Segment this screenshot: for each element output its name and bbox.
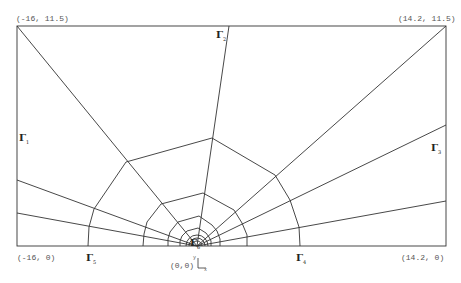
coord-bottom-right: (14.2, 0) [401,253,444,262]
coord-top-left: (-16, 11.5) [16,14,69,23]
boundary-label-gamma-4: Γ4 [296,252,306,265]
coord-bottom-left: (-16, 0) [17,253,55,262]
radial-lines [17,26,446,246]
boundary-label-gamma-1: Γ1 [19,132,29,145]
mesh-drawing [0,0,461,283]
axis-x-label: x [204,267,207,273]
boundary-label-gamma-5: Γ5 [86,252,96,265]
boundary-label-gamma-3: Γ3 [431,142,441,155]
ring-1 [88,138,300,246]
boundary-label-gamma-2: Γ2 [216,29,226,42]
axis-y-label: y [193,255,196,261]
coord-origin: (0,0) [170,261,194,270]
coord-top-right: (14.2, 11.5) [398,14,456,23]
boundary-label-gamma-6: Γ6 [190,237,200,250]
